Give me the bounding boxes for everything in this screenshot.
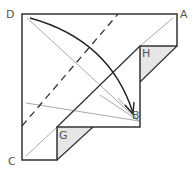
label-g: G xyxy=(59,129,68,142)
valley-fold-line xyxy=(22,14,118,126)
label-h: H xyxy=(142,47,150,60)
origami-diagram: D A C H B G xyxy=(0,0,196,178)
label-d: D xyxy=(6,8,14,21)
label-b: B xyxy=(132,109,140,122)
label-c: C xyxy=(8,155,16,168)
crease-lower-left xyxy=(26,127,57,156)
crease-upper-right xyxy=(140,18,173,46)
label-a: A xyxy=(180,8,188,21)
fold-arrow xyxy=(30,18,133,113)
